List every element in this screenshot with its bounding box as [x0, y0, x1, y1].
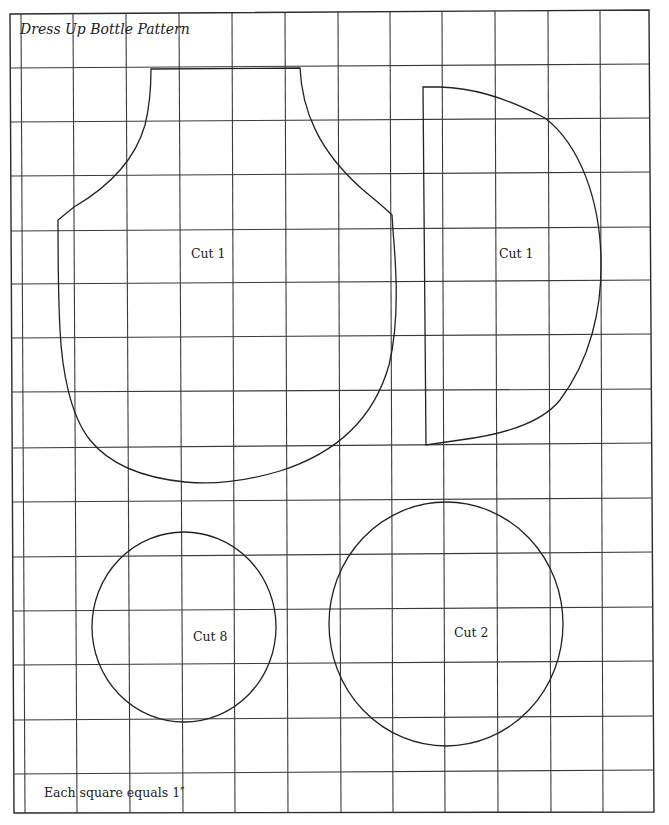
piece-large-circle: Cut 2	[329, 502, 563, 746]
grid-horizontal-lines	[10, 64, 654, 774]
piece-label: Cut 1	[191, 246, 226, 261]
piece-label: Cut 8	[193, 629, 228, 644]
sheet-border	[10, 10, 654, 813]
d-shape-outline	[423, 87, 601, 445]
piece-half-circle: Cut 1	[423, 87, 601, 445]
pattern-sheet: Dress Up Bottle Pattern Cut 1 Cut 1 Cut …	[0, 0, 669, 825]
piece-body-front: Cut 1	[58, 68, 396, 483]
grid-vertical-lines	[21, 10, 603, 813]
piece-small-circle: Cut 8	[92, 532, 276, 722]
piece-label: Cut 2	[454, 625, 489, 640]
scale-note: Each square equals 1″	[44, 785, 185, 800]
large-circle-outline	[329, 502, 563, 746]
bottle-body-outline	[58, 68, 396, 483]
pattern-title: Dress Up Bottle Pattern	[19, 21, 190, 37]
piece-label: Cut 1	[499, 246, 534, 261]
small-circle-outline	[92, 532, 276, 722]
